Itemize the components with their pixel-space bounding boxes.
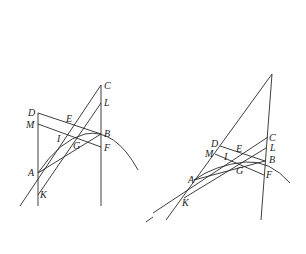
point-label-a: A <box>27 167 35 178</box>
point-label-a: A <box>187 174 195 185</box>
point-label-f: F <box>265 169 273 180</box>
line-MF <box>38 124 101 147</box>
point-label-m: M <box>204 148 214 159</box>
geometry-diagram: CLDEMBIGFAK CDLEMIBGFAK <box>0 0 306 254</box>
point-label-i: I <box>56 133 61 144</box>
parabola-curve <box>38 133 138 173</box>
point-label-e: E <box>235 143 242 154</box>
point-label-i: I <box>223 151 228 162</box>
point-label-k: K <box>39 189 48 200</box>
line-C-to-bottom <box>20 85 101 206</box>
point-label-k: K <box>181 197 190 208</box>
right-figure-labels: CDLEMIBGFAK <box>181 132 276 208</box>
point-label-d: D <box>27 107 36 118</box>
stray-curve-fragment <box>146 217 153 222</box>
point-label-l: L <box>269 142 276 153</box>
point-label-g: G <box>236 165 243 176</box>
point-label-m: M <box>25 119 35 130</box>
point-label-f: F <box>103 142 111 153</box>
point-label-c: C <box>104 80 111 91</box>
point-label-g: G <box>73 140 80 151</box>
left-figure <box>20 85 153 222</box>
point-label-e: E <box>65 113 72 124</box>
line-AB <box>38 134 101 173</box>
point-label-b: B <box>269 154 275 165</box>
point-label-b: B <box>104 128 110 139</box>
point-label-l: L <box>103 97 110 108</box>
